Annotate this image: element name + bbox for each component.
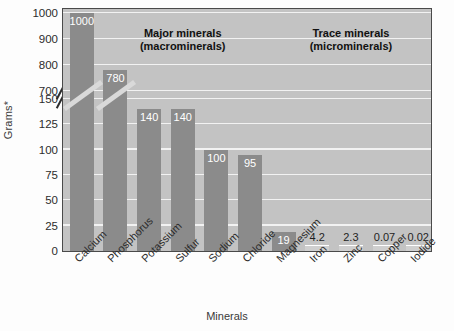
x-tick-iodide: Iodide <box>408 235 438 265</box>
x-axis-title: Minerals <box>0 310 454 322</box>
x-tick-sulfur: Sulfur <box>173 236 202 265</box>
x-tick-copper: Copper <box>375 230 409 264</box>
x-tick-sodium: Sodium <box>206 230 241 265</box>
x-tick-iron: Iron <box>307 243 329 265</box>
x-tick-calcium: Calcium <box>72 228 109 265</box>
x-tick-chloride: Chloride <box>240 227 277 264</box>
mineral-requirements-bar-chart: Grams* 02550751001251507008009001000 100… <box>0 0 454 331</box>
x-tick-zinc: Zinc <box>341 241 364 264</box>
x-axis-tick-labels: CalciumPhosphorusPotassiumSulfurSodiumCh… <box>0 0 454 331</box>
